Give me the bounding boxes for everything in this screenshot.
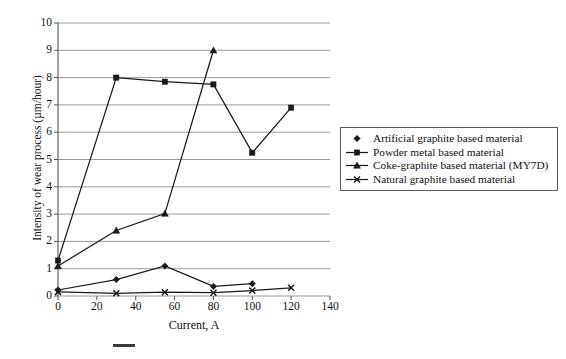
chart-legend: Artificial graphite based materialPowder… <box>340 127 558 191</box>
square-marker <box>354 150 359 155</box>
plot-area <box>58 23 330 296</box>
data-point-marker-square <box>114 75 119 80</box>
x-tick-label: 60 <box>155 300 195 312</box>
legend-item: Natural graphite based material <box>344 173 554 187</box>
x-tick-label: 100 <box>232 300 272 312</box>
data-series <box>55 285 294 296</box>
square-marker <box>289 105 294 110</box>
legend-item-label: Coke-graphite based material (MY7D) <box>370 159 548 172</box>
data-point-marker-diamond <box>210 283 217 290</box>
legend-item-label: Powder metal based material <box>370 146 504 159</box>
x-tick-label: 140 <box>310 300 350 312</box>
data-point-marker-diamond <box>162 263 169 270</box>
data-point-marker-diamond <box>113 276 120 283</box>
legend-item: Powder metal based material <box>344 146 554 160</box>
square-marker <box>162 79 167 84</box>
data-point-marker-square <box>211 82 216 87</box>
data-point-marker-square <box>354 150 359 155</box>
x-tick-label: 20 <box>77 300 117 312</box>
data-point-marker-square <box>289 105 294 110</box>
x-tick-label: 40 <box>116 300 156 312</box>
legend-marker-diamond <box>344 132 370 145</box>
y-axis-tick-labels: 012345678910 <box>6 23 52 296</box>
diamond-marker <box>249 280 256 287</box>
diamond-marker <box>162 263 169 270</box>
diamond-marker <box>113 276 120 283</box>
diamond-marker <box>210 283 217 290</box>
square-marker <box>250 150 255 155</box>
data-point-marker-triangle <box>161 210 168 216</box>
square-marker <box>211 82 216 87</box>
y-tick-label: 10 <box>12 17 52 29</box>
chart-figure: 012345678910 Intensity of wear process (… <box>0 0 566 359</box>
legend-item: Coke-graphite based material (MY7D) <box>344 159 554 173</box>
x-axis-title: Current, A <box>58 318 330 333</box>
stray-dash-artifact <box>113 344 135 347</box>
y-axis-title: Intensity of wear process (µm/hour) <box>31 43 43 273</box>
x-tick-label: 120 <box>271 300 311 312</box>
x-tick-label: 0 <box>38 300 78 312</box>
triangle-marker <box>161 210 168 216</box>
diamond-marker <box>354 136 361 143</box>
legend-item-label: Artificial graphite based material <box>370 132 523 145</box>
square-marker <box>114 75 119 80</box>
chart-plot-svg <box>58 23 330 296</box>
data-point-marker-diamond <box>354 136 361 143</box>
data-series <box>55 75 293 263</box>
legend-marker-x-cross <box>344 173 370 186</box>
data-series <box>55 263 256 294</box>
data-series <box>54 47 216 269</box>
x-axis-tick-labels: 020406080100120140 <box>58 300 330 316</box>
data-point-marker-square <box>162 79 167 84</box>
data-point-marker-square <box>250 150 255 155</box>
legend-marker-square <box>344 146 370 159</box>
legend-item: Artificial graphite based material <box>344 132 554 146</box>
legend-marker-triangle <box>344 159 370 172</box>
series-line <box>58 266 252 290</box>
x-tick-label: 80 <box>193 300 233 312</box>
series-line <box>58 288 291 293</box>
legend-item-label: Natural graphite based material <box>370 173 515 186</box>
data-point-marker-diamond <box>249 280 256 287</box>
